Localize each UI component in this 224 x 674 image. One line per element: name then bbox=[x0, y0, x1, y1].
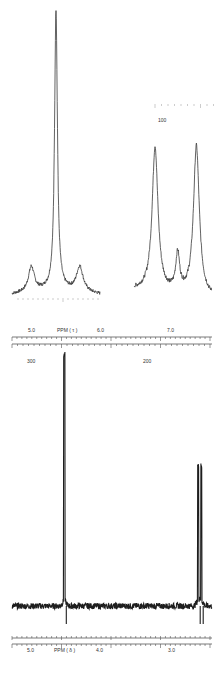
expansion-right-top-ticks bbox=[155, 104, 214, 108]
delta-axis-label: PPM ( δ ) bbox=[54, 647, 75, 653]
scale-label-200: 200 bbox=[143, 358, 152, 364]
expansion-left-trace bbox=[12, 11, 100, 295]
expansion-right-trace bbox=[134, 143, 212, 290]
expansion-left-baseline-ticks bbox=[18, 298, 98, 302]
expansion-right: 100 bbox=[134, 104, 214, 290]
axis-tau: 5.0 PPM ( τ ) 6.0 7.0 bbox=[12, 327, 212, 348]
axis-delta: 5.0 PPM ( δ ) 4.0 3.0 bbox=[12, 636, 212, 653]
scale-label-300: 300 bbox=[27, 358, 36, 364]
delta-tick-label-5: 5.0 bbox=[27, 647, 34, 653]
tau-tick-label-7: 7.0 bbox=[167, 327, 174, 333]
nmr-figure: 100 5.0 PPM ( τ ) 6.0 7.0 300 200 5.0 PP… bbox=[0, 0, 224, 674]
full-spectrum-trace bbox=[12, 352, 212, 624]
expansion-left bbox=[12, 11, 100, 302]
tau-axis-ticks bbox=[12, 337, 210, 348]
delta-axis-ticks bbox=[12, 636, 210, 648]
expansion-right-scale-label: 100 bbox=[158, 117, 167, 123]
tau-tick-label-6: 6.0 bbox=[97, 327, 104, 333]
delta-tick-label-4: 4.0 bbox=[96, 647, 103, 653]
delta-tick-label-3: 3.0 bbox=[168, 647, 175, 653]
full-spectrum: 300 200 bbox=[12, 352, 212, 624]
tau-axis-label: PPM ( τ ) bbox=[57, 327, 78, 333]
tau-tick-label-5: 5.0 bbox=[28, 327, 35, 333]
